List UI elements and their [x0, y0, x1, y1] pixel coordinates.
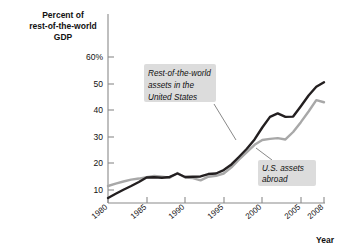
y-axis-title: Percent of rest-of-the-world GDP: [29, 10, 97, 42]
annotation-leader-row-assets: [214, 104, 236, 140]
y-axis-title-line-2: rest-of-the-world: [29, 21, 97, 31]
x-tick-label-1980: 1980: [90, 202, 110, 221]
y-tick-label-20: 20: [94, 158, 104, 168]
x-tick-label-1995: 1995: [206, 202, 226, 221]
y-axis-ticks: [108, 57, 114, 190]
x-tick-label-1985: 1985: [129, 202, 149, 221]
y-axis-tick-labels: 60% 50 40 30 20 10: [86, 52, 103, 195]
annotation-row-assets-line-3: United States: [148, 93, 197, 102]
annotation-us-assets-line-2: abroad: [262, 175, 288, 184]
y-axis-title-line-3: GDP: [54, 32, 73, 42]
y-tick-label-40: 40: [94, 105, 104, 115]
x-tick-label-1990: 1990: [167, 202, 187, 221]
y-tick-label-30: 30: [94, 132, 104, 142]
x-tick-label-2005: 2005: [283, 202, 303, 221]
y-axis-title-line-1: Percent of: [42, 10, 84, 20]
x-axis-tick-labels: 1980 1985 1990 1995 2000 2005 2008: [90, 202, 326, 221]
annotation-row-assets-line-1: Rest-of-the-world: [148, 69, 211, 78]
y-tick-label-60: 60%: [86, 52, 103, 62]
y-tick-label-50: 50: [94, 79, 104, 89]
y-tick-label-10: 10: [94, 185, 104, 195]
annotation-us-assets-line-1: U.S. assets: [262, 164, 304, 173]
x-axis-title: Year: [316, 235, 335, 245]
x-axis-ticks: [108, 197, 324, 203]
x-tick-label-2000: 2000: [244, 202, 264, 221]
annotation-row-assets: Rest-of-the-world assets in the United S…: [144, 64, 216, 102]
annotation-us-assets: U.S. assets abroad: [258, 160, 316, 186]
x-tick-label-2008: 2008: [306, 202, 326, 221]
chart-figure: Percent of rest-of-the-world GDP 60% 50 …: [0, 0, 341, 250]
chart-svg: Percent of rest-of-the-world GDP 60% 50 …: [0, 0, 341, 250]
annotation-leader-us-assets: [256, 148, 272, 160]
annotation-row-assets-line-2: assets in the: [148, 81, 194, 90]
